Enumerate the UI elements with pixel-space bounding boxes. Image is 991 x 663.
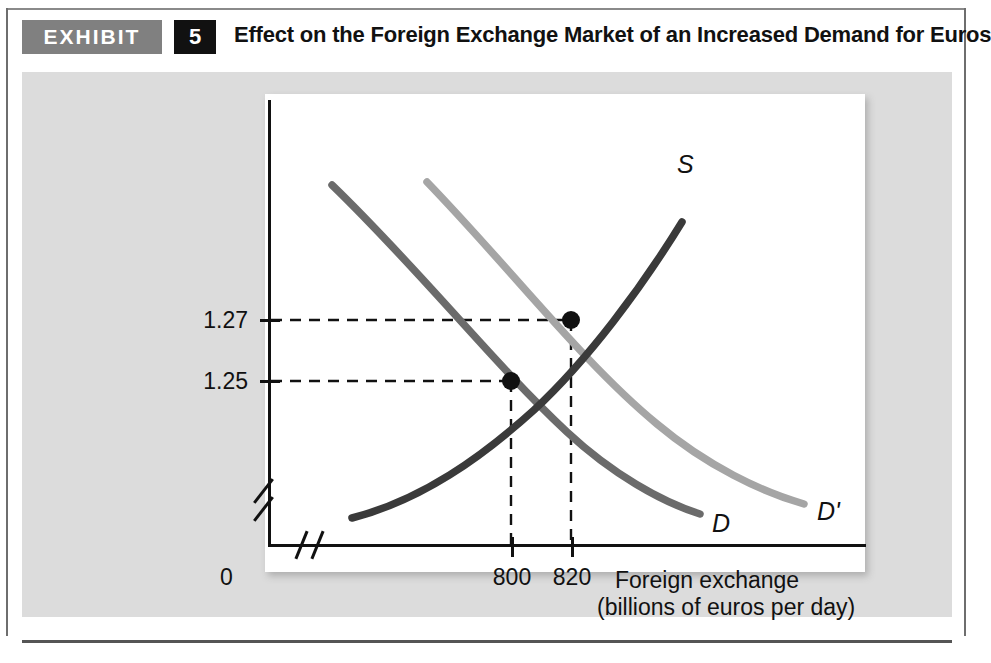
y-tick-label-127: 1.27 xyxy=(168,307,248,334)
x-tick-820 xyxy=(571,537,574,557)
y-tick-127 xyxy=(260,319,280,322)
exhibit-number-badge: 5 xyxy=(174,20,216,54)
curve-label-S: S xyxy=(677,150,694,179)
y-tick-label-125: 1.25 xyxy=(168,368,248,395)
exhibit-header: EXHIBIT 5 Effect on the Foreign Exchange… xyxy=(22,18,952,62)
plot-canvas xyxy=(265,94,865,572)
y-tick-125 xyxy=(260,380,280,383)
x-axis-title: Foreign exchange (billions of euros per … xyxy=(597,567,937,621)
x-axis-title-line1: Foreign exchange xyxy=(597,567,937,594)
x-tick-800 xyxy=(511,537,514,557)
curve-label-D: D xyxy=(712,509,730,538)
page-title: Effect on the Foreign Exchange Market of… xyxy=(234,22,991,48)
x-axis-title-line2: (billions of euros per day) xyxy=(597,594,937,621)
page-frame-right xyxy=(964,8,966,636)
figure-panel: Exchange rate (dollars per euro) 1.27 1.… xyxy=(22,72,952,617)
x-axis-line xyxy=(268,544,866,547)
page-frame-top xyxy=(6,8,966,10)
footer-rule xyxy=(22,640,952,643)
page-frame-left xyxy=(6,8,8,636)
curve-label-D-prime: D' xyxy=(817,497,840,526)
exhibit-badge: EXHIBIT xyxy=(22,20,162,54)
origin-label: 0 xyxy=(220,564,233,591)
